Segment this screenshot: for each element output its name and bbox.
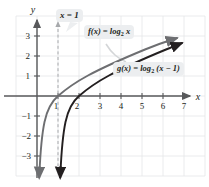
x-tick-label-4: 4 bbox=[119, 101, 124, 111]
annotation-function-f-label: f(x) = log2 x bbox=[84, 25, 134, 39]
x-tick-label-3: 3 bbox=[98, 101, 103, 111]
y-axis-label: y bbox=[30, 4, 36, 15]
x-tick-label-7: 7 bbox=[182, 101, 187, 111]
curve-f bbox=[40, 38, 178, 172]
x-tick-label-6: 6 bbox=[161, 101, 166, 111]
y-tick-label-neg-1: −1 bbox=[21, 111, 31, 121]
logarithm-graph-figure: 1 2 3 4 5 6 7 1 2 3 −1 −2 −3 y x bbox=[0, 0, 209, 187]
annotation-f-prefix: f(x) = log bbox=[88, 26, 121, 36]
annotation-g-suffix: (x − 1) bbox=[154, 63, 180, 73]
y-tick-label-neg-2: −2 bbox=[21, 131, 31, 141]
x-tick-label-5: 5 bbox=[140, 101, 145, 111]
annotation-f-suffix: x bbox=[124, 26, 130, 36]
x-tick-label-2: 2 bbox=[75, 101, 80, 111]
y-tick-label-neg-3: −3 bbox=[21, 151, 31, 161]
x-axis-label: x bbox=[195, 91, 201, 102]
y-tick-label-3: 3 bbox=[26, 31, 31, 41]
annotation-g-prefix: g(x) = log bbox=[117, 63, 151, 73]
annotation-asymptote-text: x = 1 bbox=[60, 10, 79, 20]
annotation-function-g-label: g(x) = log2 (x − 1) bbox=[113, 62, 184, 76]
y-tick-label-1: 1 bbox=[26, 71, 31, 81]
y-tick-label-2: 2 bbox=[26, 51, 31, 61]
callout-tail-asymptote bbox=[66, 22, 78, 32]
annotation-asymptote-label: x = 1 bbox=[56, 9, 83, 22]
